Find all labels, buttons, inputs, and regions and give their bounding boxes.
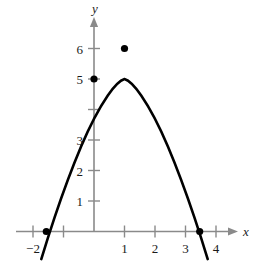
x-tick-label-3: 3	[182, 241, 189, 256]
y-tick-label-2: 2	[77, 164, 84, 179]
point-vertex	[121, 45, 128, 52]
x-tick-label-neg2: −2	[26, 241, 40, 256]
x-axis-label: x	[242, 224, 249, 239]
point-right-root	[196, 228, 203, 235]
x-tick-label-1: 1	[121, 241, 128, 256]
y-tick-label-6: 6	[77, 42, 84, 57]
y-axis-label: y	[90, 1, 98, 16]
x-tick-label-2: 2	[152, 241, 159, 256]
point-left-root	[43, 228, 50, 235]
y-axis-arrow-icon	[90, 17, 98, 27]
x-axis-arrow-icon	[228, 227, 238, 235]
y-tick-label-1: 1	[77, 194, 84, 209]
y-tick-label-3: 3	[77, 133, 84, 148]
parabola-plot: −2 1 2 3 4 1 2 3 5 6 x y	[0, 0, 262, 269]
y-tick-label-5: 5	[77, 72, 84, 87]
x-tick-label-4: 4	[213, 241, 220, 256]
point-y-intercept	[90, 75, 97, 82]
parabola-figure: −2 1 2 3 4 1 2 3 5 6 x y	[0, 0, 262, 269]
